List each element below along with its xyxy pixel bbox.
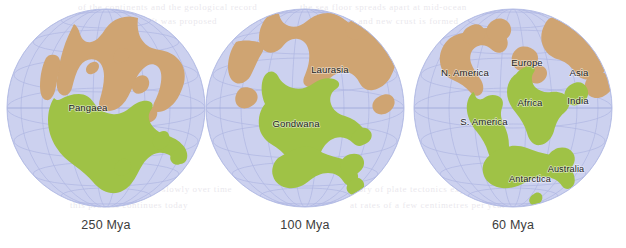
globes-svg: Pangaea bbox=[0, 0, 626, 248]
map-label-africa: Africa bbox=[517, 97, 543, 108]
globe-100mya: Laurasia Gondwana bbox=[206, 9, 404, 207]
map-label-laurasia: Laurasia bbox=[311, 64, 349, 75]
map-label-asia: Asia bbox=[569, 67, 589, 78]
globe-60mya: N. America Europe Asia Africa India S. A… bbox=[414, 9, 613, 207]
map-label-gondwana: Gondwana bbox=[272, 118, 320, 129]
map-label-australia: Australia bbox=[548, 164, 585, 174]
caption-100mya: 100 Mya bbox=[280, 218, 329, 232]
map-label-n-america: N. America bbox=[441, 67, 489, 78]
map-label-s-america: S. America bbox=[460, 116, 508, 127]
map-label-europe: Europe bbox=[511, 57, 543, 68]
caption-60mya: 60 Mya bbox=[492, 218, 534, 232]
caption-250mya: 250 Mya bbox=[81, 218, 130, 232]
globes-stage: of the continents and the geological rec… bbox=[0, 0, 626, 248]
globe-250mya: Pangaea bbox=[7, 9, 205, 207]
map-label-antarctica: Antarctica bbox=[509, 174, 552, 184]
continental-drift-figure: of the continents and the geological rec… bbox=[0, 0, 626, 248]
map-label-india: India bbox=[567, 95, 589, 106]
map-label-pangaea: Pangaea bbox=[68, 102, 108, 113]
